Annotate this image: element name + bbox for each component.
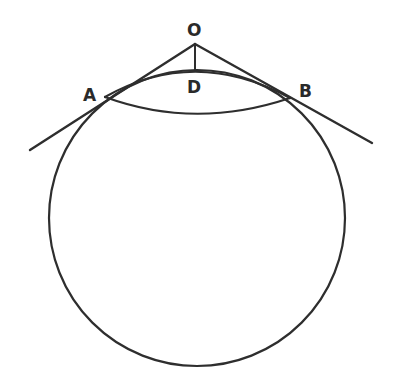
label-d: D — [187, 77, 201, 97]
geometry-diagram: O D A B — [0, 0, 396, 387]
tangent-line-left — [30, 44, 195, 150]
label-o: O — [187, 20, 201, 40]
label-b: B — [299, 81, 312, 101]
lower-arc-ab — [105, 97, 290, 114]
label-a: A — [83, 85, 97, 105]
